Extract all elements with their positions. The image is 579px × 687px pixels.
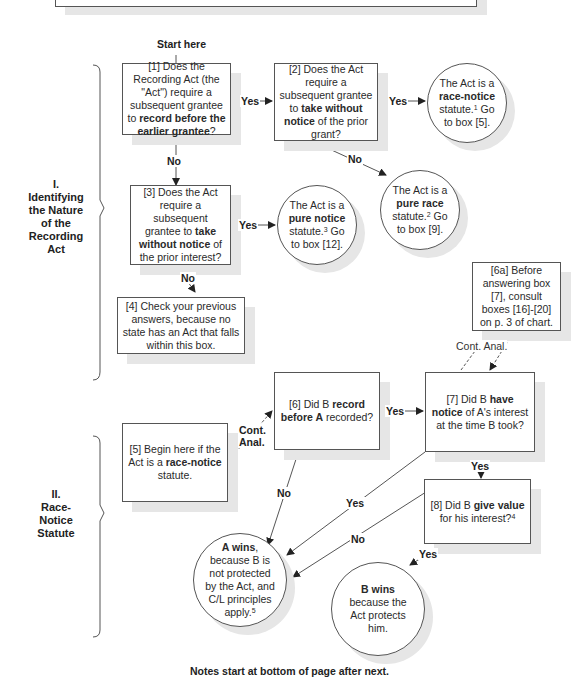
- circle-b-wins: B wins because the Act protects him.: [331, 562, 425, 656]
- box-6-record-before-a: [6] Did B record before A recorded?: [274, 372, 380, 450]
- edge-label-line: Anal.: [239, 436, 266, 448]
- section-1-line: the Nature: [20, 204, 92, 217]
- box-5-begin-race-notice: [5] Begin here if the Act is a race-noti…: [122, 423, 228, 502]
- start-here-label: Start here: [156, 38, 207, 50]
- box-4-check-answers: [4] Check your previous answers, because…: [117, 297, 245, 354]
- section-2-label: II. Race- Notice Statute: [20, 488, 92, 540]
- section-1-line: Identifying: [20, 191, 92, 204]
- edge-label-yes-3-pure-notice: Yes: [238, 219, 258, 231]
- circle-text-bold: pure notice: [289, 212, 346, 224]
- edge-label-cont-anal-5-6: Cont. Anal.: [238, 424, 267, 448]
- circle-text-bold: B wins: [361, 583, 395, 595]
- section-2-numeral: II.: [20, 488, 92, 501]
- footnote-marker: 4: [511, 513, 515, 520]
- edge-label-no-8-a-wins: No: [350, 533, 366, 545]
- box-text: [6a] Before answering box [7], consult b…: [477, 264, 556, 329]
- box-text: [8] Did B: [431, 499, 474, 511]
- box-text-bold: record: [332, 398, 365, 410]
- box-3-pure-notice-question: [3] Does the Act require a subsequent gr…: [130, 185, 231, 265]
- box-text: [4] Check your previous answers, because…: [122, 300, 240, 352]
- footnote-marker: 5: [252, 607, 256, 614]
- section-1-line: Act: [20, 243, 92, 256]
- circle-race-notice-statute: The Act is a race-notice statute.1 Go to…: [427, 63, 507, 143]
- section-1-line: of the: [20, 217, 92, 230]
- section-2-line: Notice: [20, 514, 92, 527]
- edge-label-no-2-pure-race: No: [347, 153, 363, 165]
- footnote-marker: 3: [324, 226, 328, 233]
- box-1-recording-act-question: [1] Does the Recording Act (the "Act") r…: [122, 63, 231, 135]
- edge-label-line: Cont.: [239, 424, 266, 436]
- section-2-line: Race-: [20, 501, 92, 514]
- box-text: [7] Did B: [446, 393, 489, 405]
- edge-label-cont-anal-6a: Cont. Anal.: [456, 340, 507, 352]
- box-2-take-without-notice-question: [2] Does the Act require a subsequent gr…: [274, 63, 378, 141]
- section-2-line: Statute: [20, 527, 92, 540]
- box-text-bold: before A: [281, 411, 323, 423]
- footnote-marker: 2: [427, 211, 431, 218]
- edge-label-no-3-4: No: [180, 272, 196, 284]
- circle-text-bold: race-notice: [439, 90, 495, 102]
- section-1-line: Recording: [20, 230, 92, 243]
- box-text-bold: give value: [474, 499, 525, 511]
- box-text: of the prior grant?: [311, 115, 368, 140]
- box-7-have-notice: [7] Did B have notice of A's interest at…: [425, 372, 535, 452]
- footnote-marker: 1: [474, 104, 478, 111]
- edge-label-yes-6-7: Yes: [385, 405, 405, 417]
- box-6a-consult-boxes: [6a] Before answering box [7], consult b…: [472, 262, 561, 331]
- circle-text-bold: A wins: [222, 541, 255, 553]
- circle-a-wins: A wins, because B is not protected by th…: [193, 533, 287, 627]
- circle-pure-notice-statute: The Act is a pure notice statute.3 Go to…: [277, 185, 357, 265]
- circle-text: statute.: [439, 103, 473, 115]
- circle-text: The Act is a: [393, 184, 448, 196]
- box-text: ?: [210, 125, 216, 137]
- edge-label-yes-2-race-notice: Yes: [388, 95, 408, 107]
- box-text: recorded?: [323, 411, 373, 423]
- box-8-give-value: [8] Did B give value for his interest?4: [424, 479, 531, 544]
- circle-text: statute.: [289, 225, 323, 237]
- box-text: statute.: [158, 469, 192, 481]
- edge-label-no-6-a-wins: No: [276, 487, 292, 499]
- circle-text: The Act is a: [440, 77, 495, 89]
- circle-text: The Act is a: [290, 199, 345, 211]
- circle-pure-race-statute: The Act is a pure race statute.2 Go to b…: [380, 170, 460, 250]
- footer-note: Notes start at bottom of page after next…: [0, 665, 579, 677]
- edge-label-yes-1-2: Yes: [240, 95, 260, 107]
- circle-text: statute.: [392, 210, 426, 222]
- edge-label-no-1-3: No: [166, 155, 182, 167]
- edge-label-yes-8-b-wins: Yes: [418, 548, 438, 560]
- box-text: [6] Did B: [289, 398, 332, 410]
- circle-text-bold: pure race: [396, 197, 443, 209]
- section-1-label: I. Identifying the Nature of the Recordi…: [20, 178, 92, 256]
- box-text: for his interest?: [440, 512, 512, 524]
- box-text-bold: race-notice: [166, 456, 222, 468]
- section-1-numeral: I.: [20, 178, 92, 191]
- edge-label-yes-7-8: Yes: [470, 460, 490, 472]
- circle-text: because the Act protects him.: [349, 596, 406, 634]
- edge-label-yes-7-a-wins: Yes: [345, 497, 365, 509]
